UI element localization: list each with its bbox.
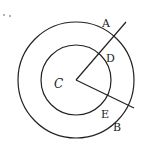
label-a: A: [101, 17, 111, 30]
label-c: C: [54, 77, 63, 91]
speck: [3, 14, 5, 16]
label-d: D: [106, 52, 115, 65]
radius-line-cb: [76, 80, 134, 108]
radius-line-ca: [76, 22, 126, 80]
label-b: B: [113, 121, 121, 134]
concentric-circles-diagram: C A D E B: [0, 0, 143, 144]
speck: [9, 15, 11, 17]
label-e: E: [101, 108, 109, 121]
